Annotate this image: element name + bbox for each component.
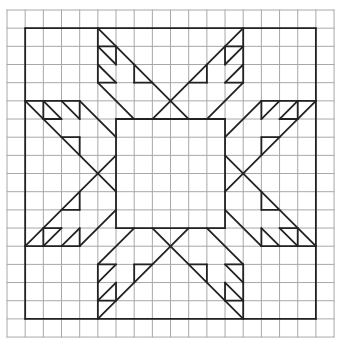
pattern-line <box>225 46 243 64</box>
pattern-line <box>225 155 316 246</box>
pattern-line <box>225 101 316 192</box>
pattern-line <box>280 101 298 119</box>
pattern-line <box>225 264 243 282</box>
pattern-line <box>98 283 116 301</box>
pattern-line <box>261 101 279 119</box>
pattern-line <box>62 228 80 246</box>
pattern-line <box>98 46 116 64</box>
pattern-line <box>280 228 298 246</box>
quilt-diagram <box>0 0 341 344</box>
pattern-line <box>98 28 189 119</box>
graph-grid <box>7 10 334 337</box>
pattern-line <box>152 228 243 319</box>
pattern-line <box>25 101 116 192</box>
pattern-line <box>225 65 243 83</box>
pattern-line <box>261 228 279 246</box>
pattern-line <box>43 101 61 119</box>
pattern-line <box>225 283 243 301</box>
pattern-line <box>98 65 116 83</box>
pattern-line <box>62 101 80 119</box>
pattern-line <box>98 264 116 282</box>
pattern-line <box>98 228 189 319</box>
pattern-line <box>25 155 116 246</box>
pattern-line <box>43 228 61 246</box>
pattern-line <box>152 28 243 119</box>
